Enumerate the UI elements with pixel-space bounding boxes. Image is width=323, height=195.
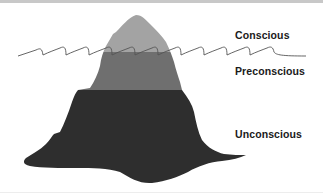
- bottom-border: [0, 192, 323, 193]
- unconscious-layer: [0, 90, 323, 195]
- conscious-layer: [0, 0, 323, 52]
- label-preconscious: Preconscious: [235, 65, 305, 77]
- label-unconscious: Unconscious: [235, 128, 302, 140]
- label-conscious: Conscious: [235, 29, 290, 41]
